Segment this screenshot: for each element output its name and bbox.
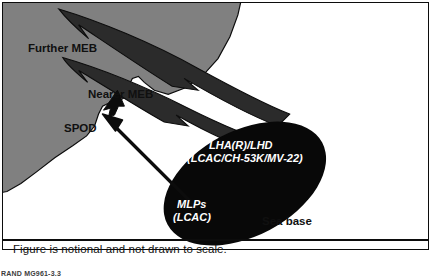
label-sea-base: Sea base xyxy=(262,215,312,227)
label-nearer-meb: Nearer MEB xyxy=(88,88,153,100)
figure-caption: Figure is notional and not drawn to scal… xyxy=(13,243,413,255)
sea-base-to-spod-arrow xyxy=(103,114,199,209)
caption-separator-rule xyxy=(2,239,429,241)
label-lha-lhd-line1: LHA(R)/LHD xyxy=(209,139,273,151)
figure-root: Further MEB Nearer MEB SPOD LHA(R)/LHD (… xyxy=(0,0,433,279)
label-spod: SPOD xyxy=(64,122,97,134)
label-further-meb: Further MEB xyxy=(28,42,97,54)
figure-frame: Further MEB Nearer MEB SPOD LHA(R)/LHD (… xyxy=(2,2,429,250)
figure-source-line: RAND MG961-3.3 xyxy=(1,270,171,279)
label-lha-lhd-line2: (LCAC/CH-53K/MV-22) xyxy=(187,152,303,164)
label-mlps-line2: (LCAC) xyxy=(173,211,211,223)
label-mlps-line1: MLPs xyxy=(177,198,206,210)
